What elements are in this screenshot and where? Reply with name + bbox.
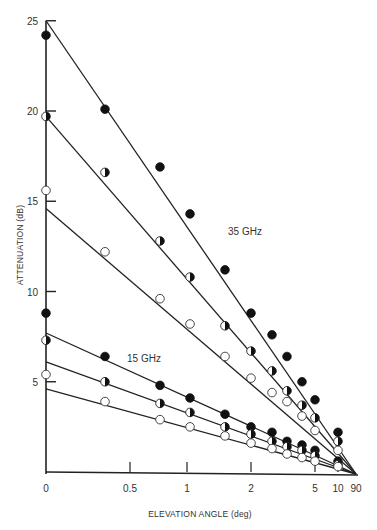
y-tick-label: 25 — [27, 16, 39, 27]
filled-circle-marker — [268, 428, 277, 437]
x-axis-title: ELEVATION ANGLE (deg) — [148, 509, 252, 519]
y-tick-label: 15 — [27, 196, 39, 207]
open-circle-marker — [311, 426, 320, 435]
fit-line — [46, 21, 356, 474]
open-circle-marker — [298, 412, 307, 421]
fit-line — [46, 362, 356, 474]
filled-circle-marker — [221, 266, 230, 275]
open-circle-marker — [221, 352, 230, 361]
x-tick-label: 10 — [332, 483, 344, 494]
open-circle-marker — [283, 397, 292, 406]
half-circle-marker — [334, 437, 343, 446]
open-circle-marker — [268, 388, 277, 397]
half-circle-marker — [42, 336, 51, 345]
open-circle-marker — [283, 450, 292, 459]
filled-circle-marker — [268, 331, 277, 340]
fit-line — [46, 116, 356, 474]
filled-circle-marker — [186, 394, 195, 403]
fit-lines — [46, 21, 356, 474]
x-tick-label: 0 — [43, 483, 49, 494]
x-tick-label: 90 — [350, 483, 362, 494]
x-tick-label: 1 — [184, 483, 190, 494]
x-tick-label: 5 — [312, 483, 318, 494]
half-circle-marker — [101, 168, 110, 177]
half-circle-marker — [311, 414, 320, 423]
filled-circle-marker — [42, 31, 51, 40]
x-tick-label: 0.5 — [123, 483, 137, 494]
fit-line — [46, 333, 356, 474]
x-tick-label: 2 — [248, 483, 254, 494]
open-circle-marker — [334, 446, 343, 455]
half-circle-marker — [221, 321, 230, 330]
attenuation-chart: 51015202500.51251090 35 GHz 15 GHz ELEVA… — [0, 0, 377, 530]
y-axis-title: ATTENUATION (dB) — [15, 205, 25, 285]
open-circle-marker — [221, 432, 230, 441]
filled-circle-marker — [334, 428, 343, 437]
half-circle-marker — [42, 112, 51, 121]
half-circle-marker — [283, 386, 292, 395]
half-circle-marker — [156, 237, 165, 246]
y-tick-label: 20 — [27, 106, 39, 117]
half-circle-marker — [268, 367, 277, 376]
open-circle-marker — [311, 457, 320, 466]
fit-line — [46, 389, 356, 474]
open-circle-marker — [247, 374, 256, 383]
y-tick-label: 5 — [32, 377, 38, 388]
data-markers — [42, 31, 343, 471]
filled-circle-marker — [156, 381, 165, 390]
half-circle-marker — [221, 423, 230, 432]
open-circle-marker — [156, 415, 165, 424]
y-tick-label: 10 — [27, 287, 39, 298]
half-circle-marker — [186, 408, 195, 417]
x-axis-line — [46, 472, 358, 475]
open-circle-marker — [334, 462, 343, 471]
filled-circle-marker — [298, 377, 307, 386]
filled-circle-marker — [42, 309, 51, 318]
annotation-35ghz: 35 GHz — [228, 226, 262, 237]
half-circle-marker — [247, 347, 256, 356]
half-circle-marker — [186, 273, 195, 282]
open-circle-marker — [268, 444, 277, 453]
filled-circle-marker — [247, 309, 256, 318]
open-circle-marker — [298, 453, 307, 462]
open-circle-marker — [42, 186, 51, 195]
filled-circle-marker — [283, 352, 292, 361]
open-circle-marker — [186, 423, 195, 432]
open-circle-marker — [247, 439, 256, 448]
half-circle-marker — [247, 430, 256, 439]
filled-circle-marker — [156, 163, 165, 172]
open-circle-marker — [101, 397, 110, 406]
annotation-15ghz: 15 GHz — [127, 353, 161, 364]
half-circle-marker — [156, 399, 165, 408]
open-circle-marker — [156, 294, 165, 303]
filled-circle-marker — [311, 396, 320, 405]
filled-circle-marker — [101, 352, 110, 361]
filled-circle-marker — [186, 210, 195, 219]
open-circle-marker — [42, 370, 51, 379]
open-circle-marker — [186, 320, 195, 329]
half-circle-marker — [101, 377, 110, 386]
filled-circle-marker — [101, 105, 110, 114]
half-circle-marker — [298, 401, 307, 410]
filled-circle-marker — [221, 410, 230, 419]
open-circle-marker — [101, 247, 110, 256]
